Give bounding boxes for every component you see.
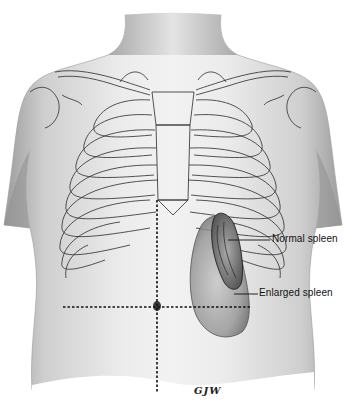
torso-illustration: Normal spleen Enlarged spleen GJW bbox=[0, 0, 346, 403]
artist-signature: GJW bbox=[194, 385, 222, 396]
torso-body bbox=[4, 13, 342, 403]
normal-spleen-label: Normal spleen bbox=[272, 233, 338, 244]
enlarged-spleen-label: Enlarged spleen bbox=[259, 287, 333, 298]
